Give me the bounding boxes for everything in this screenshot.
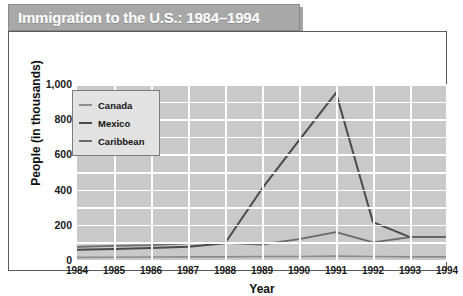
- chart-frame: People (in thousands) 02004006008001,000…: [8, 31, 447, 271]
- legend-item-label: Mexico: [98, 118, 130, 129]
- legend-item-caribbean[interactable]: Caribbean: [77, 132, 155, 150]
- x-axis-tick-label: 1994: [424, 265, 463, 276]
- y-axis-tick-label: 800: [12, 113, 72, 125]
- line-swatch-icon: [79, 122, 92, 124]
- vertical-gridline: [262, 84, 264, 260]
- vertical-gridline: [188, 84, 190, 260]
- y-axis-tick-label: 1,000: [12, 78, 72, 90]
- line-swatch-icon: [79, 104, 92, 106]
- vertical-gridline: [446, 84, 448, 260]
- line-swatch-icon: [79, 140, 92, 142]
- legend-item-canada[interactable]: Canada: [77, 96, 155, 114]
- legend-item-label: Caribbean: [98, 136, 144, 147]
- x-axis-label: Year: [77, 282, 447, 296]
- vertical-gridline: [299, 84, 301, 260]
- x-axis-ticks: 1984198519861987198819891990199119921993…: [77, 265, 447, 281]
- vertical-gridline: [336, 84, 338, 260]
- y-axis-tick-label: 600: [12, 148, 72, 160]
- vertical-gridline: [225, 84, 227, 260]
- chart-legend: CanadaMexicoCaribbean: [72, 90, 160, 156]
- legend-item-label: Canada: [98, 100, 132, 111]
- y-axis-ticks: 02004006008001,000: [9, 84, 72, 260]
- legend-item-mexico[interactable]: Mexico: [77, 114, 155, 132]
- page-title: Immigration to the U.S.: 1984–1994: [9, 9, 260, 26]
- horizontal-gridline: [77, 260, 447, 262]
- vertical-gridline: [410, 84, 412, 260]
- y-axis-tick-label: 400: [12, 184, 72, 196]
- vertical-gridline: [373, 84, 375, 260]
- y-axis-tick-label: 200: [12, 219, 72, 231]
- chart-title-banner: Immigration to the U.S.: 1984–1994: [8, 4, 300, 31]
